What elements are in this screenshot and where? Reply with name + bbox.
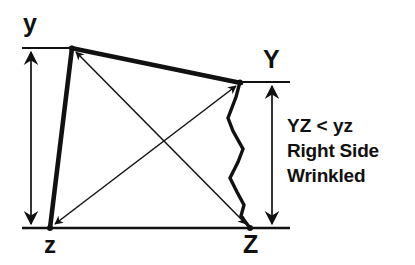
annotation-block: YZ < yz Right Side Wrinkled [287,113,413,188]
left-edge-y-to-z [50,48,72,228]
vertex-label-z-lower: z [44,233,56,257]
vertex-label-Z-upper: Z [243,232,258,257]
vertex-dot-Y [237,79,242,84]
vertex-label-Y-upper: Y [263,47,280,72]
vertex-label-y-lower: y [23,11,37,36]
annotation-line-wrinkled: Wrinkled [287,163,413,188]
vertex-dot-y [69,45,74,50]
diagonal-z-to-Y [55,86,236,224]
wrinkled-right-side [228,82,250,228]
top-edge-y-to-Y [71,48,241,83]
annotation-line-comparison: YZ < yz [287,113,413,138]
figure-root: y Y z Z YZ < yz Right Side Wrinkled [0,0,415,265]
annotation-line-right-side: Right Side [287,138,413,163]
